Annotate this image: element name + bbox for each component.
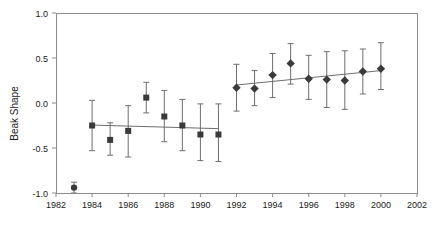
data-point-square [161,114,167,120]
data-point-square [107,137,113,143]
x-tick-label: 1984 [82,200,102,210]
data-point-square [197,132,203,138]
data-point-square [215,132,221,138]
data-point-diamond [359,67,367,75]
data-point-diamond [341,76,349,84]
x-tick-label: 1986 [118,200,138,210]
trend-line [92,125,218,129]
data-point-square [89,123,95,129]
x-tick-label: 2000 [371,200,391,210]
x-tick-label: 1992 [226,200,246,210]
data-point-diamond [305,75,313,83]
data-layer [57,14,417,193]
x-tick-label: 1982 [46,200,66,210]
x-tick-label: 1994 [263,200,283,210]
data-point-square [143,95,149,101]
x-tick-label: 1998 [335,200,355,210]
data-point-circle [71,184,77,190]
x-tick-label: 1990 [190,200,210,210]
data-point-diamond [286,59,294,67]
x-tick-label: 2002 [407,200,427,210]
figure: Beak Shape -1.0-0.50.00.51.0 19821984198… [0,0,435,227]
plot-area [56,13,418,194]
data-point-diamond [268,71,276,79]
data-point-diamond [250,84,258,92]
data-point-diamond [377,65,385,73]
x-tick-label: 1988 [154,200,174,210]
x-tick-label: 1996 [299,200,319,210]
data-point-square [179,123,185,129]
data-point-square [125,128,131,134]
